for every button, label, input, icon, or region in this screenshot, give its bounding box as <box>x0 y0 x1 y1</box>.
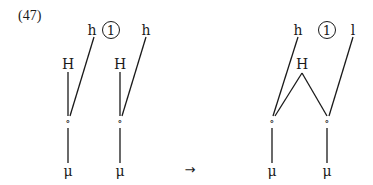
association-lines <box>0 0 373 185</box>
high-tone-H-2: H <box>114 57 126 71</box>
tone-node-1: ∘ <box>65 115 70 128</box>
mora-1: μ <box>63 164 72 178</box>
high-tone-H-1: H <box>62 57 74 71</box>
circled-number-right: 1 <box>318 21 336 39</box>
tone-h-right: h <box>293 23 302 37</box>
tone-node-2: ∘ <box>117 115 122 128</box>
mora-2: μ <box>115 164 124 178</box>
arrow-icon: → <box>185 162 196 177</box>
tone-node-right-1: ∘ <box>269 115 274 128</box>
tone-l-right: l <box>351 23 355 37</box>
mora-right-1: μ <box>267 164 276 178</box>
tone-h-1: h <box>87 23 96 37</box>
circled-label: 1 <box>107 23 115 38</box>
mora-right-2: μ <box>322 164 331 178</box>
circled-label-right: 1 <box>323 23 331 38</box>
tone-h-2: h <box>141 23 150 37</box>
circled-number: 1 <box>102 21 120 39</box>
high-tone-H-right: H <box>296 57 308 71</box>
tone-node-right-2: ∘ <box>324 115 329 128</box>
